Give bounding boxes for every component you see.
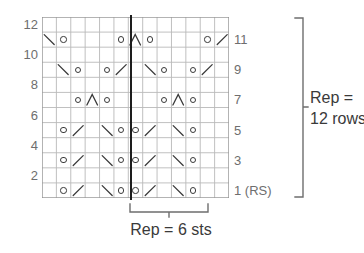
stitch-symbol-yo: [200, 32, 214, 47]
stitch-symbol-yo: [157, 62, 171, 77]
stitch-symbol-yo: [114, 123, 128, 138]
stitch-symbol-yo: [71, 62, 85, 77]
stitch-symbol-yo: [71, 92, 85, 107]
stitch-symbol-ssk: [143, 62, 157, 77]
yo-ring: [190, 67, 196, 73]
row-number-left-10: 10: [6, 48, 38, 61]
stitch-symbol-yo: [100, 92, 114, 107]
stitch-symbol-ssk: [100, 153, 114, 168]
row-repeat-label-line1: Rep =: [310, 88, 364, 109]
row-number-right-9: 9: [234, 63, 241, 76]
yo-ring: [60, 127, 66, 133]
stitch-symbol-yo: [186, 62, 200, 77]
stitch-symbol-ssk: [100, 123, 114, 138]
yo-ring: [132, 127, 138, 133]
stitch-symbol-k2tog: [143, 123, 157, 138]
stitch-symbol-yo: [56, 153, 70, 168]
stitch-symbol-k2tog: [71, 123, 85, 138]
yo-ring: [204, 36, 210, 42]
stitch-symbol-k2tog: [143, 153, 157, 168]
stitch-symbol-k2tog: [215, 32, 229, 47]
row-repeat-bracket: [294, 17, 308, 198]
yo-ring: [118, 127, 124, 133]
stitch-symbol-k2tog: [143, 183, 157, 198]
stitch-symbol-ssk: [171, 153, 185, 168]
yo-ring: [190, 97, 196, 103]
stitch-symbol-ssk: [171, 183, 185, 198]
yo-ring: [132, 187, 138, 193]
stitch-symbol-k2tog: [200, 62, 214, 77]
row-number-left-8: 8: [6, 78, 38, 91]
yo-ring: [118, 187, 124, 193]
stitch-symbol-cdd: [85, 92, 99, 107]
stitch-symbol-cdd: [171, 92, 185, 107]
row-numbers-left: 12108642: [6, 17, 38, 198]
yo-ring: [118, 36, 124, 42]
yo-ring: [75, 67, 81, 73]
stitch-symbol-yo: [100, 62, 114, 77]
yo-ring: [60, 36, 66, 42]
stitch-repeat-bracket: [129, 203, 209, 217]
yo-ring: [190, 127, 196, 133]
stitch-symbol-yo: [186, 153, 200, 168]
yo-ring: [190, 157, 196, 163]
stitch-symbol-ssk: [171, 123, 185, 138]
stitch-chart-grid: [42, 17, 229, 198]
row-number-left-6: 6: [6, 109, 38, 122]
row-number-right-3: 3: [234, 154, 241, 167]
stitch-symbol-yo: [114, 183, 128, 198]
stitch-symbol-k2tog: [71, 153, 85, 168]
yo-ring: [60, 157, 66, 163]
row-number-left-12: 12: [6, 18, 38, 31]
stitch-symbol-yo: [56, 32, 70, 47]
stitch-symbol-yo: [186, 92, 200, 107]
yo-ring: [118, 157, 124, 163]
stitch-symbol-yo: [56, 123, 70, 138]
yo-ring: [60, 187, 66, 193]
stitch-repeat-boundary-line: [130, 15, 132, 200]
stitch-symbol-k2tog: [114, 62, 128, 77]
row-repeat-label-line2: 12 rows: [310, 109, 364, 130]
yo-ring: [104, 97, 110, 103]
stitch-symbol-yo: [114, 153, 128, 168]
yo-ring: [190, 187, 196, 193]
yo-ring: [161, 67, 167, 73]
row-number-left-2: 2: [6, 169, 38, 182]
stitch-symbol-yo: [143, 32, 157, 47]
row-number-right-1: 1 (RS): [234, 184, 272, 197]
yo-ring: [147, 36, 153, 42]
stitch-repeat-label: Rep = 6 sts: [108, 222, 234, 238]
row-number-right-5: 5: [234, 124, 241, 137]
stitch-symbol-ssk: [56, 62, 70, 77]
chart-figure: 12108642 1197531 (RS) Rep = 6 sts Rep = …: [0, 0, 364, 253]
yo-ring: [132, 157, 138, 163]
stitch-symbol-yo: [186, 123, 200, 138]
row-number-right-7: 7: [234, 93, 241, 106]
stitch-symbol-yo: [56, 183, 70, 198]
stitch-symbol-k2tog: [71, 183, 85, 198]
stitch-symbol-layer: [42, 17, 229, 198]
stitch-symbol-ssk: [42, 32, 56, 47]
row-numbers-right: 1197531 (RS): [234, 17, 294, 198]
stitch-symbol-yo: [186, 183, 200, 198]
yo-ring: [75, 97, 81, 103]
stitch-symbol-yo: [114, 32, 128, 47]
yo-ring: [161, 97, 167, 103]
row-number-right-11: 11: [234, 33, 248, 46]
row-repeat-label: Rep = 12 rows: [310, 88, 364, 130]
stitch-symbol-ssk: [100, 183, 114, 198]
stitch-symbol-yo: [157, 92, 171, 107]
row-number-left-4: 4: [6, 139, 38, 152]
yo-ring: [104, 67, 110, 73]
